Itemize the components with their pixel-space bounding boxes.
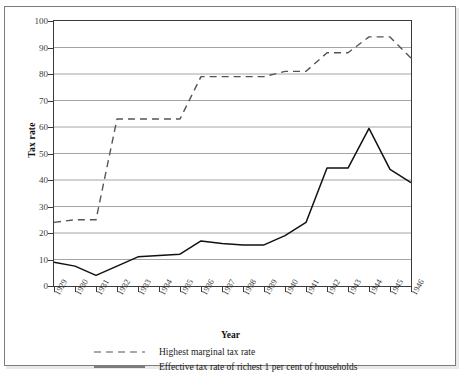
legend-item-effective-tax-rate: Effective tax rate of richest 1 per cent… — [92, 359, 412, 374]
legend-label: Effective tax rate of richest 1 per cent… — [147, 362, 357, 372]
series-line-1 — [54, 128, 411, 275]
legend-label: Highest marginal tax rate — [147, 347, 255, 357]
series-line-0 — [54, 37, 411, 223]
y-axis-ticks — [0, 20, 53, 287]
legend-item-highest-marginal-tax-rate: Highest marginal tax rate — [92, 344, 412, 359]
chart-figure: Tax rate 0102030405060708090100 19291930… — [0, 0, 461, 376]
plot-svg — [54, 21, 411, 286]
x-axis-title: Year — [0, 330, 461, 340]
chart-legend: Highest marginal tax rate Effective tax … — [92, 344, 412, 374]
legend-key-solid-icon — [92, 362, 147, 372]
legend-key-dashed-icon — [92, 347, 147, 357]
x-axis-tick-labels: 1929193019311932193319341935193619371938… — [53, 292, 412, 326]
plot-area — [53, 20, 412, 287]
